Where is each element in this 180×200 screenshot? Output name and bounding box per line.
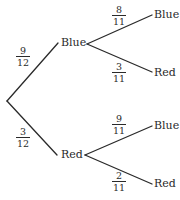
probability-red-red: 2 11 bbox=[112, 171, 126, 192]
numerator: 3 bbox=[115, 62, 123, 72]
probability-red-blue: 9 11 bbox=[112, 114, 126, 135]
numerator: 9 bbox=[19, 46, 27, 56]
node-blue-red: Red bbox=[154, 67, 176, 79]
node-first-red: Red bbox=[61, 149, 83, 161]
node-first-blue: Blue bbox=[61, 37, 86, 49]
probability-blue-blue: 8 11 bbox=[112, 5, 126, 26]
node-blue-blue: Blue bbox=[154, 9, 179, 21]
node-red-blue: Blue bbox=[154, 120, 179, 132]
probability-first-red: 3 12 bbox=[16, 127, 30, 148]
branch-root-to-red bbox=[7, 101, 57, 155]
numerator: 9 bbox=[115, 114, 123, 124]
branch-root-to-blue bbox=[7, 43, 58, 101]
denominator: 11 bbox=[112, 182, 126, 192]
denominator: 12 bbox=[16, 57, 30, 67]
node-red-red: Red bbox=[154, 178, 176, 190]
denominator: 12 bbox=[16, 138, 30, 148]
numerator: 3 bbox=[19, 127, 27, 137]
probability-first-blue: 9 12 bbox=[16, 46, 30, 67]
denominator: 11 bbox=[112, 16, 126, 26]
numerator: 8 bbox=[115, 5, 123, 15]
probability-blue-red: 3 11 bbox=[112, 62, 126, 83]
denominator: 11 bbox=[112, 125, 126, 135]
tree-branches bbox=[0, 0, 180, 200]
denominator: 11 bbox=[112, 73, 126, 83]
numerator: 2 bbox=[115, 171, 123, 181]
